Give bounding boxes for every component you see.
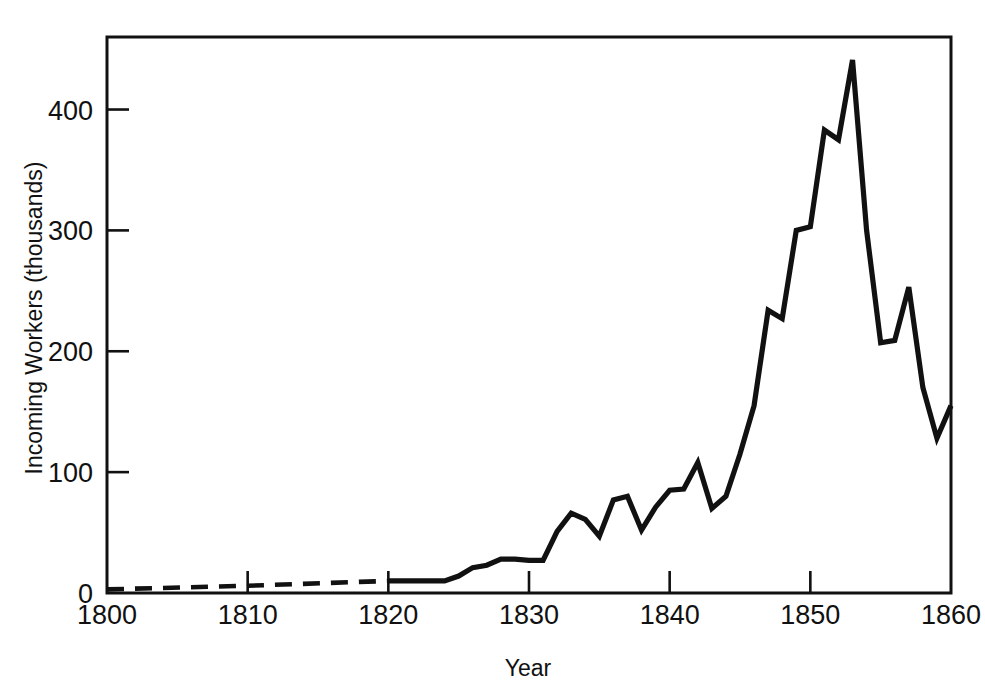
y-axis-title: Incoming Workers (thousands) xyxy=(21,162,47,475)
x-axis-tick-labels: 1800181018201830184018501860 xyxy=(77,600,981,630)
x-tick-label: 1850 xyxy=(780,600,840,630)
line-chart: 1800181018201830184018501860 01002003004… xyxy=(0,0,985,698)
x-axis-title: Year xyxy=(505,655,552,681)
y-tick-label: 0 xyxy=(78,579,93,609)
x-tick-label: 1840 xyxy=(640,600,700,630)
plot-frame xyxy=(107,37,951,593)
y-tick-label: 200 xyxy=(48,337,93,367)
y-axis-tick-labels: 0100200300400 xyxy=(48,96,93,609)
data-series-group xyxy=(107,60,951,589)
y-tick-label: 400 xyxy=(48,96,93,126)
y-tick-label: 100 xyxy=(48,458,93,488)
data-line-solid xyxy=(388,60,951,581)
x-tick-label: 1820 xyxy=(358,600,418,630)
y-tick-label: 300 xyxy=(48,216,93,246)
x-tick-label: 1860 xyxy=(921,600,981,630)
x-tick-label: 1810 xyxy=(218,600,278,630)
chart-container: 1800181018201830184018501860 01002003004… xyxy=(0,0,985,698)
x-tick-label: 1830 xyxy=(499,600,559,630)
y-axis-ticks xyxy=(107,110,129,473)
